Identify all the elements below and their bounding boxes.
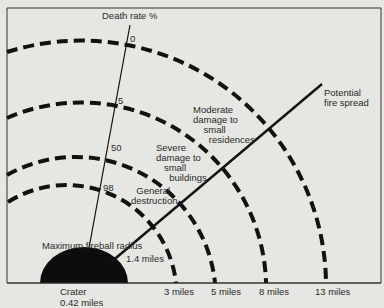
distance-8-miles: 8 miles [259, 287, 289, 297]
death-rate-tick-50: 50 [111, 143, 122, 153]
death-rate-tick-5: 5 [118, 96, 123, 106]
crater-shape [40, 247, 128, 283]
death-rate-line [89, 25, 130, 248]
zone-severe-damage-label: Severe damage to small buildings [156, 143, 207, 183]
crater-value: 0.42 miles [60, 298, 103, 308]
death-rate-tick-0: 0 [130, 34, 135, 44]
distance-5-miles: 5 miles [211, 287, 241, 297]
zone-general-destruction-label: General destruction [131, 186, 177, 206]
distance-3-miles: 3 miles [164, 287, 194, 297]
death-rate-tick-98: 98 [103, 183, 114, 193]
death-rate-axis-title: Death rate % [102, 11, 157, 21]
distance-13-miles: 13 miles [315, 287, 350, 297]
fireball-radius-label: Maximum fireball radius [42, 241, 142, 251]
crater-label: Crater [60, 287, 86, 297]
fireball-radius-value: 1.4 miles [126, 254, 164, 264]
zone-moderate-damage-label: Moderate damage to small residences [193, 105, 255, 145]
fire-spread-label: Potential fire spread [324, 88, 369, 108]
